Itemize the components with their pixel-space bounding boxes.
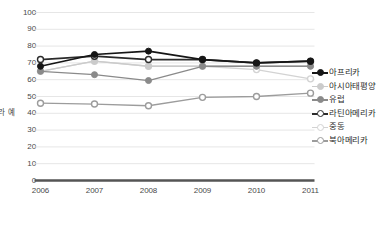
legend-marker-icon	[311, 93, 329, 107]
legend-label: 아시아태평양	[329, 80, 376, 94]
legend-item[interactable]: 아프리카	[311, 66, 381, 80]
data-point	[146, 48, 152, 54]
data-point	[38, 100, 44, 106]
chart-legend: 아프리카아시아태평양유럽라틴아메리카중동북아메리카	[311, 66, 381, 148]
legend-item[interactable]: 유럽	[311, 93, 381, 107]
legend-item[interactable]: 라틴아메리카	[311, 107, 381, 121]
data-point	[92, 52, 98, 58]
data-point	[200, 94, 206, 100]
data-point	[92, 72, 98, 78]
data-point	[254, 60, 260, 66]
data-point	[38, 57, 44, 63]
legend-marker-icon	[311, 120, 329, 134]
legend-marker-icon	[311, 107, 329, 121]
data-point	[92, 101, 98, 107]
data-point	[308, 58, 314, 64]
legend-label: 중동	[329, 120, 345, 134]
data-point	[146, 63, 152, 69]
series-line	[41, 66, 311, 80]
legend-label: 라틴아메리카	[329, 107, 376, 121]
data-point	[200, 63, 206, 69]
series-line	[41, 93, 311, 106]
line-chart: 예 라 고 응 답 한 비 율 0102030405060708090100 2…	[0, 0, 381, 227]
legend-item[interactable]: 아시아태평양	[311, 80, 381, 94]
legend-marker-icon	[311, 80, 329, 94]
data-point	[254, 94, 260, 100]
legend-label: 아프리카	[329, 66, 360, 80]
legend-item[interactable]: 중동	[311, 120, 381, 134]
legend-marker-icon	[311, 66, 329, 80]
data-point	[146, 78, 152, 84]
data-point	[146, 57, 152, 63]
data-point	[146, 103, 152, 109]
legend-item[interactable]: 북아메리카	[311, 134, 381, 148]
legend-label: 유럽	[329, 93, 345, 107]
data-point	[200, 57, 206, 63]
legend-marker-icon	[311, 134, 329, 148]
legend-label: 북아메리카	[329, 134, 368, 148]
data-point	[38, 63, 44, 69]
